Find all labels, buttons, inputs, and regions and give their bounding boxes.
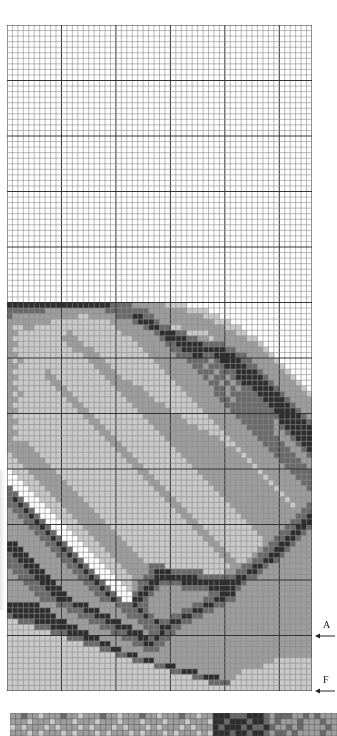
arrow-left-icon [315,633,335,639]
marker-label-f: F [323,674,329,685]
next-page-chart-strip [10,713,337,736]
row-marker-a: A [311,619,337,639]
row-marker-f: F [311,674,337,694]
marker-label-a: A [323,619,330,630]
page-edge-shadow [0,470,5,610]
chart-grid-lines [7,25,312,691]
arrow-left-icon [315,688,335,694]
stitch-chart-grid [7,25,312,691]
